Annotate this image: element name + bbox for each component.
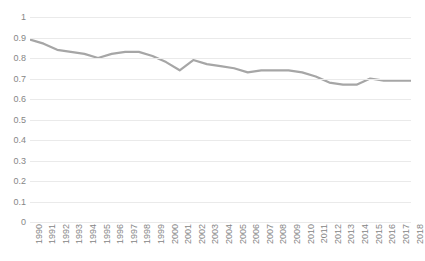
x-tick-label: 2015 — [374, 224, 384, 244]
x-tick-label: 2017 — [401, 224, 411, 244]
x-tick-label: 1996 — [115, 224, 125, 244]
x-tick-label: 2018 — [415, 224, 425, 244]
x-tick-label: 2005 — [238, 224, 248, 244]
y-tick-label: 0.6 — [13, 95, 26, 104]
y-tick-label: 0.8 — [13, 54, 26, 63]
x-tick-label: 2008 — [278, 224, 288, 244]
x-tick-label: 2000 — [170, 224, 180, 244]
x-tick-label: 2013 — [346, 224, 356, 244]
chart-title — [30, 0, 410, 3]
x-tick-label: 1994 — [88, 224, 98, 244]
x-tick-label: 2007 — [265, 224, 275, 244]
x-tick-label: 1990 — [34, 224, 44, 244]
x-tick-label: 1993 — [74, 224, 84, 244]
gridline — [30, 222, 411, 223]
gridline — [30, 202, 411, 203]
x-tick-label: 2011 — [319, 224, 329, 243]
gridline — [30, 17, 411, 18]
gridline — [30, 99, 411, 100]
y-tick-label: 0 — [21, 218, 26, 227]
gridline — [30, 140, 411, 141]
gridline — [30, 120, 411, 121]
gridline — [30, 161, 411, 162]
gridline — [30, 181, 411, 182]
x-tick-label: 2001 — [183, 224, 193, 244]
x-tick-label: 2006 — [251, 224, 261, 244]
gridline — [30, 38, 411, 39]
y-tick-label: 0.5 — [13, 115, 26, 124]
x-tick-label: 2012 — [333, 224, 343, 244]
x-tick-label: 1991 — [47, 224, 57, 244]
x-tick-label: 1998 — [142, 224, 152, 244]
y-tick-label: 0.1 — [13, 197, 26, 206]
x-tick-label: 1999 — [156, 224, 166, 244]
y-tick-label: 0.3 — [13, 156, 26, 165]
x-axis: 1990199119921993199419951996199719981999… — [30, 224, 411, 261]
x-tick-label: 1995 — [102, 224, 112, 244]
gridline — [30, 79, 411, 80]
x-tick-label: 2010 — [306, 224, 316, 244]
x-tick-label: 1997 — [129, 224, 139, 244]
x-tick-label: 2004 — [224, 224, 234, 244]
plot-area — [30, 17, 411, 222]
x-tick-label: 2002 — [197, 224, 207, 244]
y-tick-label: 1 — [21, 13, 26, 22]
x-tick-label: 1992 — [61, 224, 71, 244]
y-tick-label: 0.9 — [13, 33, 26, 42]
y-tick-label: 0.7 — [13, 74, 26, 83]
x-tick-label: 2014 — [360, 224, 370, 244]
y-tick-label: 0.4 — [13, 136, 26, 145]
y-tick-label: 0.2 — [13, 177, 26, 186]
gridline — [30, 58, 411, 59]
y-axis: 10.90.80.70.60.50.40.30.20.10 — [0, 0, 26, 239]
x-tick-label: 2009 — [292, 224, 302, 244]
x-tick-label: 2003 — [210, 224, 220, 244]
x-tick-label: 2016 — [387, 224, 397, 244]
